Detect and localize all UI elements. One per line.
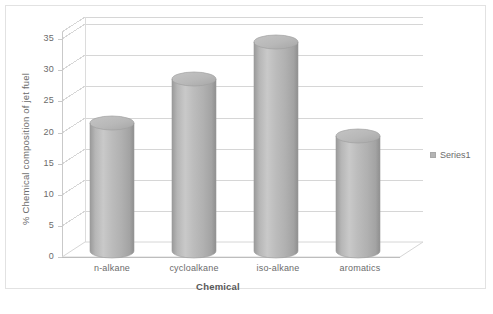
chart-container: 35 30 25 20 15 10 5 0 n-alkane cycloalka… (0, 0, 493, 314)
x-tick-label-aromatics: aromatics (318, 264, 402, 273)
y-axis-title: % Chemical composition of jet fuel (20, 73, 31, 225)
chart-legend: Series1 (430, 150, 471, 160)
bar-iso-alkane (254, 35, 298, 258)
x-tick-label-n-alkane: n-alkane (72, 264, 152, 273)
bar-aromatics (336, 129, 380, 258)
figure-caption (0, 300, 493, 312)
y-tick-label: 35 (24, 34, 54, 43)
bar-n-alkane (90, 116, 134, 258)
legend-swatch-series1 (430, 152, 436, 158)
y-tick-label: 0 (24, 252, 54, 261)
bar-cycloalkane (172, 72, 216, 258)
legend-label-series1: Series1 (440, 150, 471, 160)
x-tick-label-iso-alkane: iso-alkane (238, 264, 318, 273)
x-tick-label-cycloalkane: cycloalkane (150, 264, 238, 273)
x-axis-title: Chemical (158, 281, 278, 292)
